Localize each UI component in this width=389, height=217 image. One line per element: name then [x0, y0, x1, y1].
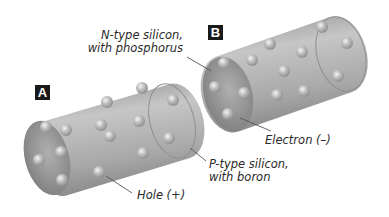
n-type-label: N-type silicon, with phosphorus	[85, 29, 183, 55]
n-type-label-line2: with phosphorus	[85, 42, 183, 55]
panel-badge-b: B	[208, 25, 223, 40]
semiconductor-diagram	[0, 0, 389, 217]
hole-label: Hole (+)	[137, 189, 185, 202]
p-type-label-line2: with boron	[209, 171, 289, 184]
electron-label: Electron (–)	[265, 134, 331, 147]
p-type-label: P-type silicon, with boron	[209, 158, 289, 184]
panel-badge-a: A	[35, 85, 50, 100]
